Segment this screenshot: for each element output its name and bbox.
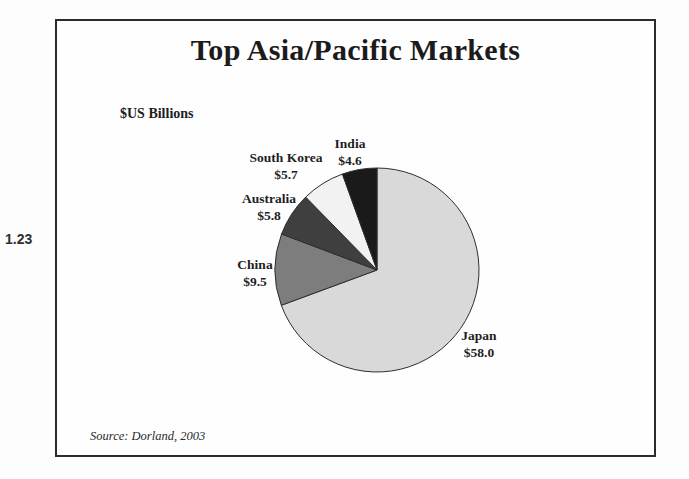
source-note: Source: Dorland, 2003 — [90, 429, 205, 444]
pie-label-australia: Australia$5.8 — [219, 190, 319, 224]
scanned-slide-page: 1.23 Top Asia/Pacific Markets $US Billio… — [0, 0, 689, 479]
figure-number: 1.23 — [5, 231, 51, 247]
pie-label-name: Australia — [219, 190, 319, 207]
chart-title: Top Asia/Pacific Markets — [55, 33, 656, 67]
pie-label-india: India$4.6 — [300, 135, 400, 169]
pie-label-japan: Japan$58.0 — [429, 327, 529, 361]
unit-label: $US Billions — [120, 106, 194, 122]
pie-label-china: China$9.5 — [205, 256, 305, 290]
pie-label-value: $4.6 — [300, 152, 400, 169]
pie-label-name: India — [300, 135, 400, 152]
pie-label-value: $9.5 — [205, 273, 305, 290]
pie-label-name: Japan — [429, 327, 529, 344]
pie-label-name: China — [205, 256, 305, 273]
pie-label-value: $58.0 — [429, 344, 529, 361]
pie-label-value: $5.8 — [219, 207, 319, 224]
